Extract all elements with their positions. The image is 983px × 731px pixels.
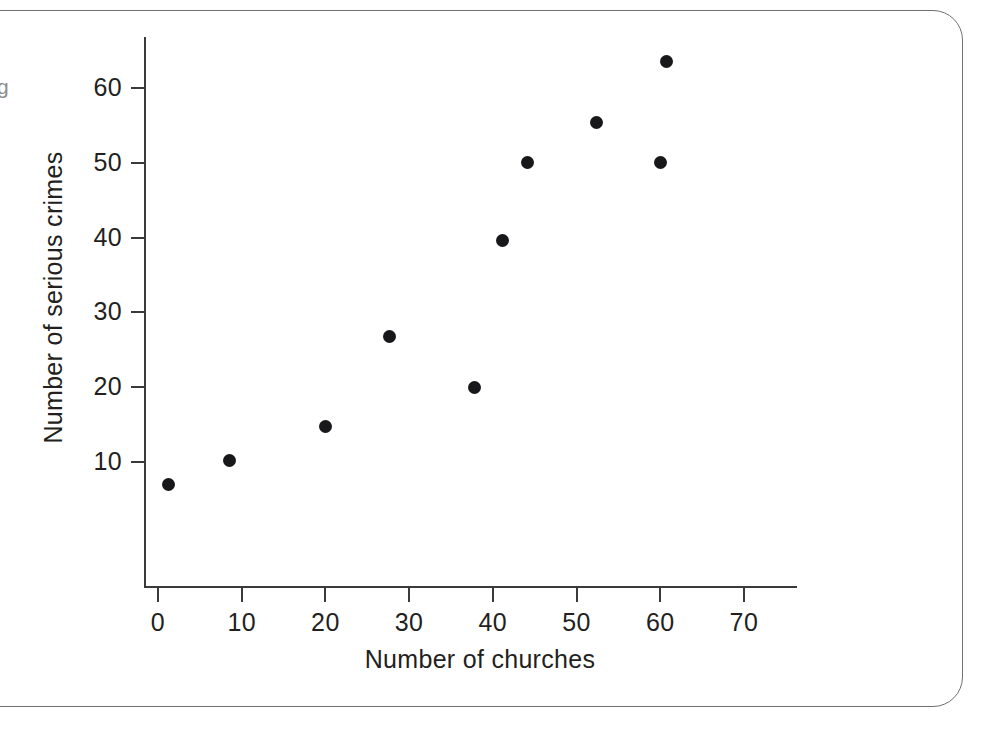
x-axis-title: Number of churches — [270, 645, 690, 674]
x-axis-tick-label: 50 — [547, 608, 607, 637]
y-axis-tick — [131, 87, 144, 89]
x-axis-tick — [492, 588, 494, 602]
y-axis-tick-label: 30 — [62, 297, 122, 326]
data-point — [521, 156, 534, 169]
x-axis-tick — [324, 588, 326, 602]
page-canvas: g 102030405060 010203040506070 Number of… — [0, 0, 983, 731]
data-point — [590, 116, 603, 129]
data-point — [162, 478, 175, 491]
y-axis-tick — [131, 386, 144, 388]
y-axis-tick-label: 60 — [62, 73, 122, 102]
x-axis-tick — [576, 588, 578, 602]
data-point — [654, 156, 667, 169]
x-axis-tick — [659, 588, 661, 602]
x-axis-tick-label: 70 — [714, 608, 774, 637]
y-axis-line — [144, 37, 146, 588]
x-axis-tick-label: 0 — [128, 608, 188, 637]
y-axis-tick — [131, 311, 144, 313]
x-axis-tick-label: 60 — [630, 608, 690, 637]
data-point — [223, 454, 236, 467]
data-point — [496, 234, 509, 247]
scatter-chart-figure: 102030405060 010203040506070 Number of c… — [0, 0, 983, 731]
x-axis-tick — [743, 588, 745, 602]
y-axis-tick — [131, 461, 144, 463]
y-axis-tick-label: 40 — [62, 223, 122, 252]
y-axis-tick-label: 50 — [62, 148, 122, 177]
x-axis-tick — [157, 588, 159, 602]
data-point — [319, 420, 332, 433]
x-axis-tick — [408, 588, 410, 602]
data-point — [660, 55, 673, 68]
y-axis-tick-label: 20 — [62, 372, 122, 401]
x-axis-tick-label: 30 — [379, 608, 439, 637]
data-point — [468, 381, 481, 394]
x-axis-tick-label: 10 — [212, 608, 272, 637]
y-axis-title: Number of serious crimes — [39, 133, 68, 463]
x-axis-tick-label: 40 — [463, 608, 523, 637]
y-axis-tick — [131, 237, 144, 239]
x-axis-tick — [241, 588, 243, 602]
y-axis-tick — [131, 162, 144, 164]
x-axis-tick-label: 20 — [295, 608, 355, 637]
y-axis-tick-label: 10 — [62, 447, 122, 476]
data-point — [383, 330, 396, 343]
